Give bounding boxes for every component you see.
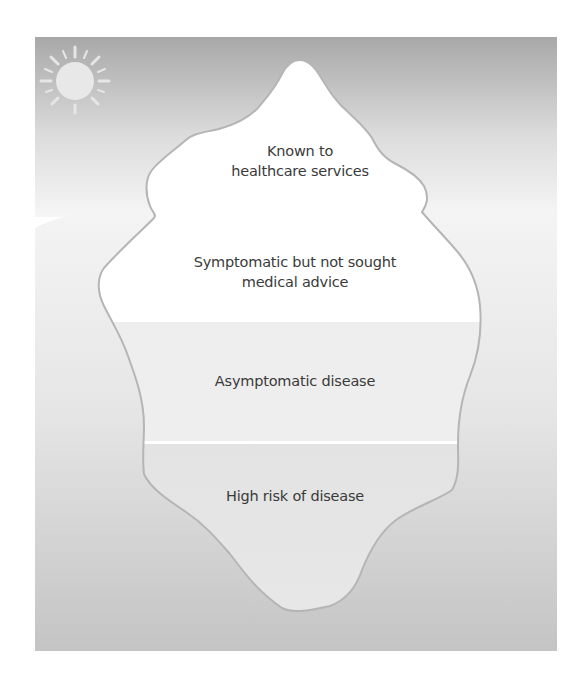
label-known-to-healthcare: Known to healthcare services: [200, 141, 400, 181]
label-line: medical advice: [160, 272, 430, 292]
label-line: Known to: [200, 141, 400, 161]
label-high-risk-of-disease: High risk of disease: [180, 486, 410, 506]
label-line: High risk of disease: [180, 486, 410, 506]
label-symptomatic-not-sought-advice: Symptomatic but not sought medical advic…: [160, 252, 430, 292]
label-line: Asymptomatic disease: [180, 371, 410, 391]
iceberg-diagram: Known to healthcare services Symptomatic…: [0, 0, 584, 683]
label-line: Symptomatic but not sought: [160, 252, 430, 272]
label-asymptomatic-disease: Asymptomatic disease: [180, 371, 410, 391]
iceberg-illustration: [0, 0, 584, 683]
scene-frame: [35, 37, 557, 651]
label-line: healthcare services: [200, 161, 400, 181]
